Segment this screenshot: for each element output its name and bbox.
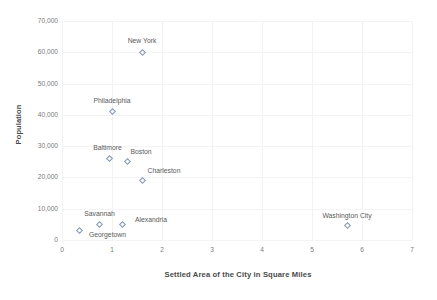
data-point-marker[interactable] [343,222,350,229]
data-point-label: Boston [130,148,151,155]
y-axis-tick-label: 60,000 [18,48,58,55]
data-point-marker[interactable] [138,177,145,184]
data-point-label: Georgetown [89,231,126,238]
scatter-chart: Population New YorkPhiladelphiaBaltimore… [0,0,437,300]
data-point-label: Alexandria [135,216,167,223]
gridline-vertical [162,21,163,240]
data-point-marker[interactable] [76,227,83,234]
plot-area: New YorkPhiladelphiaBaltimoreBostonCharl… [62,21,412,240]
data-point-marker[interactable] [123,158,130,165]
y-axis-tick-label: 70,000 [18,17,58,24]
gridline-vertical [62,21,63,240]
data-point-marker[interactable] [118,221,125,228]
data-point-label: New York [128,37,157,44]
x-axis-tick-labels: 01234567 [62,246,412,258]
gridline-horizontal [62,84,412,85]
data-point-label: Baltimore [93,144,122,151]
x-axis-tick-label: 3 [200,246,224,253]
data-point-label: Charleston [148,167,181,174]
x-axis-tick-label: 4 [250,246,274,253]
gridline-horizontal [62,52,412,53]
gridline-horizontal [62,21,412,22]
x-axis-tick-label: 0 [50,246,74,253]
gridline-vertical [112,21,113,240]
gridline-vertical [362,21,363,240]
y-axis-tick-label: 50,000 [18,80,58,87]
data-point-marker[interactable] [138,49,145,56]
gridline-horizontal [62,115,412,116]
y-axis-tick-label: 0 [18,236,58,243]
data-point-label: Savannah [84,210,115,217]
data-point-label: Philadelphia [93,97,130,104]
x-axis-tick-label: 7 [400,246,424,253]
x-axis-tick-label: 6 [350,246,374,253]
y-axis-tick-labels: 010,00020,00030,00040,00050,00060,00070,… [14,21,58,240]
y-axis-tick-label: 30,000 [18,142,58,149]
x-axis-tick-label: 5 [300,246,324,253]
x-axis-tick-label: 2 [150,246,174,253]
data-point-label: Washington City [322,212,371,219]
gridline-horizontal [62,177,412,178]
y-axis-tick-label: 10,000 [18,205,58,212]
gridline-vertical [312,21,313,240]
gridline-vertical [262,21,263,240]
gridline-vertical [212,21,213,240]
y-axis-tick-label: 40,000 [18,111,58,118]
gridline-vertical [412,21,413,240]
gridline-horizontal [62,240,412,241]
y-axis-tick-label: 20,000 [18,173,58,180]
data-point-marker[interactable] [96,221,103,228]
x-axis-tick-label: 1 [100,246,124,253]
x-axis-title: Settled Area of the City in Square Miles [62,270,414,279]
